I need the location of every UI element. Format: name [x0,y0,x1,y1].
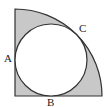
inscribed-circle [15,24,87,96]
label-c: C [79,22,86,34]
label-a: A [4,52,12,64]
geometry-diagram: A B C [0,0,108,107]
label-b: B [47,96,54,107]
